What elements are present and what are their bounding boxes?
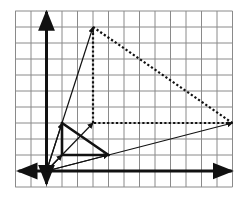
coordinate-diagram	[0, 0, 242, 199]
vector-arrow	[47, 27, 94, 171]
vector-arrow	[47, 123, 94, 171]
